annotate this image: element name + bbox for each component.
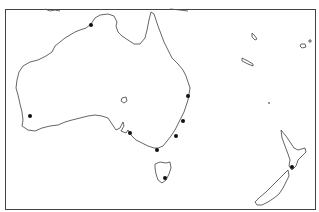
nz-south-island-coastline [255, 170, 289, 205]
tasmania-coastline [155, 162, 171, 183]
nz-north-island-coastline [281, 130, 306, 170]
map-frame [6, 10, 316, 210]
norfolk-island [268, 102, 270, 104]
city-marker-sydney[interactable] [174, 134, 178, 138]
city-marker-adelaide[interactable] [128, 131, 132, 135]
city-marker-wellington[interactable] [290, 165, 294, 169]
new-caledonia-outline [242, 58, 253, 66]
city-marker-hobart[interactable] [163, 176, 167, 180]
map-canvas [0, 0, 319, 212]
city-marker-darwin[interactable] [89, 23, 93, 27]
city-marker-brisbane[interactable] [186, 94, 190, 98]
city-marker-port-macquarie[interactable] [181, 119, 185, 123]
city-marker-melbourne[interactable] [155, 148, 159, 152]
city-markers [28, 23, 294, 180]
vanuatu-islands [252, 33, 257, 40]
australia-coastline [16, 12, 190, 148]
inland-lake-outline [121, 97, 127, 103]
fiji-islands [300, 40, 311, 48]
city-marker-perth[interactable] [28, 114, 32, 118]
